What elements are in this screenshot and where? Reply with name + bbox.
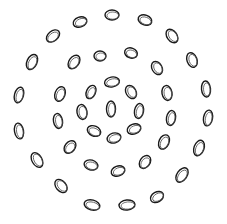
loop-shape (110, 164, 127, 178)
loop-shape (106, 131, 122, 144)
loop-shape (53, 85, 68, 103)
loop-shape (123, 83, 139, 100)
concentric-loops-diagram (0, 0, 227, 224)
loop-shape (44, 27, 62, 44)
loops-group (13, 10, 214, 212)
loop-shape (52, 177, 69, 195)
loop-shape (72, 15, 89, 29)
ring-ring-1 (76, 76, 145, 145)
loop-inner-stroke (107, 12, 119, 19)
loop-inner-stroke (109, 103, 116, 116)
ring-ring-3 (13, 10, 214, 212)
loop-shape (192, 139, 207, 157)
ring-center (107, 101, 116, 117)
loop-shape (126, 122, 143, 136)
loop-shape (29, 151, 46, 170)
loop-inner-stroke (204, 112, 213, 126)
loop-shape (86, 124, 103, 139)
loop-inner-stroke (167, 112, 176, 125)
loop-inner-stroke (135, 105, 144, 118)
loop-shape (149, 59, 165, 76)
loop-inner-stroke (96, 53, 106, 60)
loop-shape (164, 27, 181, 45)
loop-inner-stroke (106, 78, 120, 87)
